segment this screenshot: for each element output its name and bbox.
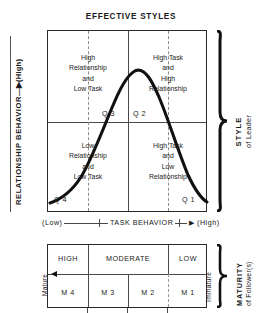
maturity-immature-label: Immature (205, 272, 212, 302)
maturity-band-low: LOW (179, 254, 197, 263)
style-of-leader-label: STYLE of Leader (234, 115, 253, 148)
style-of-leader-title: STYLE (234, 115, 243, 148)
maturity-tick-2 (127, 308, 128, 313)
quadrant-label-q1: Q 1 (182, 195, 195, 204)
x-axis-high-label: (High) (195, 218, 222, 227)
quadrant-q2-text: High Task and High Relationship (149, 53, 187, 95)
quadrant-label-q3: Q 3 (102, 109, 115, 118)
maturity-level-m3: M 3 (101, 288, 114, 297)
maturity-of-followers-brace (214, 244, 230, 308)
quadrant-q3-line2: Relationship (69, 63, 107, 73)
x-axis-tick-2 (179, 219, 180, 227)
quadrant-q3-line1: High (69, 53, 107, 63)
maturity-tick-3 (167, 308, 168, 313)
maturity-of-followers-label: MATURITY of Follower(s) (235, 261, 252, 306)
quadrant-label-q4: Q 4 (54, 195, 67, 204)
quadrant-q4-text: Low Relationship and Low Task (69, 141, 107, 183)
maturity-tick-1 (87, 308, 88, 313)
quadrant-q2-line4: Relationship (149, 84, 187, 94)
chart-title: EFFECTIVE STYLES (86, 13, 176, 22)
quadrant-label-q2: Q 2 (133, 109, 146, 118)
maturity-level-m1: M 1 (181, 288, 194, 297)
y-axis-arrow: —▶ (14, 82, 23, 96)
quadrant-q1-line3: Low (149, 162, 187, 172)
maturity-mature-label: Mature (41, 274, 48, 296)
quadrant-q1-line4: Relationship (149, 172, 187, 182)
y-axis-label: RELATIONSHIP BEHAVIOR—▶(High) (14, 59, 23, 205)
quadrant-q1-text: High Task and Low Relationship (149, 141, 187, 183)
quadrant-q2-line1: High Task (149, 53, 187, 63)
quadrant-q3-line4: Low Task (69, 84, 107, 94)
maturity-subtitle: of Follower(s) (245, 261, 252, 306)
maturity-title: MATURITY (235, 261, 244, 306)
situational-leadership-diagram: EFFECTIVE STYLES RELATIONSHIP BEHAVIOR—▶… (0, 0, 262, 313)
quadrant-q4-line4: Low Task (69, 172, 107, 182)
x-axis-low-label: (Low) (40, 218, 64, 227)
y-axis-high-label: (High) (14, 59, 23, 82)
quadrant-q4-line1: Low (69, 141, 107, 151)
maturity-level-m2: M 2 (141, 288, 154, 297)
maturity-level-m4: M 4 (61, 288, 74, 297)
quadrant-q3-line3: and (69, 74, 107, 84)
quadrant-q1-line2: and (149, 151, 187, 161)
maturity-band-moderate: MODERATE (106, 254, 150, 263)
y-axis-rule (10, 36, 11, 212)
quadrant-q2-line2: and (149, 63, 187, 73)
style-of-leader-brace (214, 30, 230, 212)
x-axis-tick-1 (99, 219, 100, 227)
quadrant-q4-line2: Relationship (69, 151, 107, 161)
y-axis-label-text: RELATIONSHIP BEHAVIOR (14, 96, 23, 205)
maturity-table: HIGH MODERATE LOW M 4 M 3 M 2 M 1 (47, 244, 207, 308)
quadrant-q1-line1: High Task (149, 141, 187, 151)
quadrant-q3-text: High Relationship and Low Task (69, 53, 107, 95)
maturity-band-high: HIGH (58, 254, 78, 263)
quadrant-q2-line3: High (149, 74, 187, 84)
plot-area: High Relationship and Low Task High Task… (47, 30, 207, 212)
x-axis-group: (Low) TASK BEHAVIOR ▶ (High) (40, 216, 235, 230)
quadrant-q4-line3: and (69, 162, 107, 172)
style-of-leader-subtitle: of Leader (244, 115, 253, 148)
x-axis-label: TASK BEHAVIOR (108, 218, 175, 227)
